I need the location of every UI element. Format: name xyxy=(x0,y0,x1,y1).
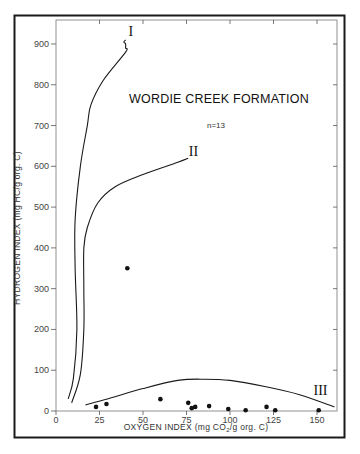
x-tick-label: 150 xyxy=(309,415,324,425)
data-point xyxy=(125,266,130,271)
y-tick-label: 300 xyxy=(34,284,49,294)
curve-type-ii xyxy=(72,158,189,403)
curve-type-iii xyxy=(86,379,335,407)
curve-labels: IIIIII xyxy=(128,24,327,398)
outer-frame xyxy=(15,16,345,438)
right-axis-ticks xyxy=(333,44,337,370)
data-points xyxy=(94,266,321,413)
y-tick-label: 700 xyxy=(34,121,49,131)
data-point xyxy=(226,407,231,412)
data-point xyxy=(273,408,278,413)
data-point xyxy=(193,405,198,410)
data-point xyxy=(243,408,248,413)
sample-count: n=13 xyxy=(207,121,226,130)
y-tick-label: 0 xyxy=(44,406,49,416)
data-point xyxy=(316,408,321,413)
chart-title: WORDIE CREEK FORMATION xyxy=(129,92,309,106)
y-tick-label: 500 xyxy=(34,202,49,212)
x-tick-label: 0 xyxy=(53,415,58,425)
x-tick-label: 25 xyxy=(94,415,104,425)
y-tick-label: 900 xyxy=(34,39,49,49)
y-tick-label: 200 xyxy=(34,324,49,334)
curve-label-i: I xyxy=(128,24,133,39)
hi-oi-chart: 0100200300400500600700800900 02550751001… xyxy=(0,0,360,454)
x-axis-title: OXYGEN INDEX (mg CO2/g org. C) xyxy=(124,422,269,433)
y-axis-ticks: 0100200300400500600700800900 xyxy=(34,39,56,416)
y-tick-label: 400 xyxy=(34,243,49,253)
data-point xyxy=(264,405,269,410)
data-point xyxy=(94,405,99,410)
y-tick-label: 600 xyxy=(34,161,49,171)
y-tick-label: 800 xyxy=(34,80,49,90)
curve-label-iii: III xyxy=(313,383,327,398)
curve-type-i xyxy=(68,40,127,399)
y-tick-label: 100 xyxy=(34,365,49,375)
y-axis-title: HYDROGEN INDEX (mg HC/g org. C) xyxy=(12,151,22,305)
curve-label-ii: II xyxy=(189,144,199,159)
data-point xyxy=(104,402,109,407)
data-point xyxy=(186,401,191,406)
plot-area xyxy=(56,20,337,411)
data-point xyxy=(158,397,163,402)
data-point xyxy=(207,404,212,409)
